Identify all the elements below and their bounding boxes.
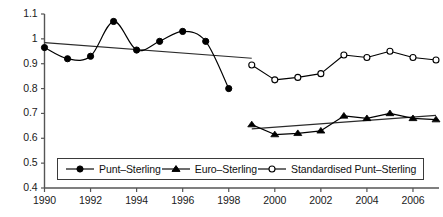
data-point-marker <box>87 53 93 59</box>
data-point-marker <box>110 18 116 24</box>
legend-entry: Euro–Sterling <box>161 162 257 176</box>
legend-label: Euro–Sterling <box>195 163 257 175</box>
series-line <box>45 21 229 88</box>
data-point-marker <box>134 47 140 53</box>
data-point-marker <box>272 77 278 83</box>
plot-area <box>0 0 443 217</box>
legend-label: Punt–Sterling <box>99 163 161 175</box>
data-point-marker <box>203 38 209 44</box>
x-tick-label: 2000 <box>251 194 299 206</box>
chart-figure: 0.40.50.60.70.80.911.1 19901992199419961… <box>0 0 443 217</box>
y-tick-label: 1.1 <box>0 7 38 19</box>
legend-entry: Standardised Punt–Sterling <box>257 162 416 176</box>
x-tick-label: 2002 <box>297 194 345 206</box>
data-point-marker <box>410 55 416 61</box>
data-point-marker <box>341 52 347 58</box>
trend-line <box>45 43 252 59</box>
data-point-marker <box>248 121 256 127</box>
data-point-marker <box>157 38 163 44</box>
x-tick-label: 1990 <box>21 194 69 206</box>
y-tick-label: 0.9 <box>0 57 38 69</box>
x-tick-label: 1992 <box>67 194 115 206</box>
data-point-marker <box>340 112 348 118</box>
y-tick-label: 0.5 <box>0 156 38 168</box>
legend-entry: Punt–Sterling <box>65 162 161 176</box>
data-point-marker <box>433 57 439 63</box>
data-point-marker <box>295 74 301 80</box>
chart-legend: Punt–SterlingEuro–SterlingStandardised P… <box>57 158 424 180</box>
x-tick-label: 1998 <box>205 194 253 206</box>
y-tick-label: 0.8 <box>0 82 38 94</box>
legend-label: Standardised Punt–Sterling <box>291 163 416 175</box>
filled-triangle-icon <box>161 162 191 176</box>
x-tick-label: 2006 <box>389 194 437 206</box>
x-tick-label: 1994 <box>113 194 161 206</box>
data-point-marker <box>318 71 324 77</box>
y-tick-label: 0.7 <box>0 106 38 118</box>
data-point-marker <box>386 110 394 116</box>
data-point-marker <box>249 62 255 68</box>
data-point-marker <box>41 44 47 50</box>
y-tick-label: 1 <box>0 32 38 44</box>
data-point-marker <box>364 55 370 61</box>
data-point-marker <box>226 85 232 91</box>
x-tick-label: 2004 <box>343 194 391 206</box>
x-tick-label: 1996 <box>159 194 207 206</box>
data-point-marker <box>387 48 393 54</box>
open-circle-icon <box>257 162 287 176</box>
y-tick-label: 0.4 <box>0 181 38 193</box>
filled-circle-icon <box>65 162 95 176</box>
data-point-marker <box>180 28 186 34</box>
data-point-marker <box>64 56 70 62</box>
data-point-marker <box>317 127 325 133</box>
y-tick-label: 0.6 <box>0 131 38 143</box>
